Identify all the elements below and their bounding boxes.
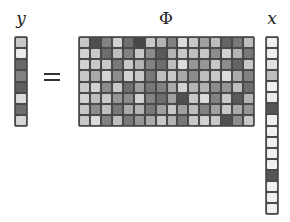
y-vector-cell	[16, 49, 26, 58]
phi-matrix-cell	[102, 71, 111, 80]
phi-matrix-cell	[222, 49, 231, 58]
y-vector-cell	[16, 116, 26, 125]
y-vector-cell	[16, 71, 26, 80]
phi-matrix-cell	[124, 105, 133, 114]
phi-matrix-cell	[102, 49, 111, 58]
phi-matrix-cell	[222, 71, 231, 80]
phi-matrix-cell	[189, 38, 198, 47]
phi-matrix-cell	[211, 38, 220, 47]
phi-matrix-cell	[168, 105, 177, 114]
phi-matrix-cell	[244, 49, 253, 58]
phi-matrix-cell	[168, 38, 177, 47]
phi-matrix-cell	[244, 60, 253, 69]
phi-matrix-cell	[168, 83, 177, 92]
phi-matrix-cell	[211, 49, 220, 58]
phi-matrix-cell	[146, 105, 155, 114]
phi-matrix-cell	[91, 105, 100, 114]
phi-matrix-cell	[91, 83, 100, 92]
phi-matrix-cell	[124, 83, 133, 92]
phi-matrix-cell	[135, 60, 144, 69]
x-vector-cell	[267, 193, 277, 202]
phi-matrix-cell	[200, 105, 209, 114]
y-vector-cell	[16, 83, 26, 92]
phi-matrix-cell	[80, 105, 89, 114]
phi-matrix-cell	[222, 116, 231, 125]
phi-matrix-cell	[222, 94, 231, 103]
phi-matrix-cell	[244, 38, 253, 47]
phi-matrix-cell	[91, 60, 100, 69]
phi-matrix-cell	[189, 71, 198, 80]
phi-matrix-cell	[168, 116, 177, 125]
y-vector-cell	[16, 38, 26, 47]
phi-matrix-cell	[113, 83, 122, 92]
y-vector-cell	[16, 60, 26, 69]
phi-matrix-cell	[178, 94, 187, 103]
phi-matrix-cell	[113, 49, 122, 58]
phi-matrix-cell	[233, 60, 242, 69]
phi-matrix-cell	[102, 38, 111, 47]
phi-matrix-cell	[113, 38, 122, 47]
phi-matrix-cell	[135, 116, 144, 125]
phi-matrix-cell	[233, 49, 242, 58]
x-vector-cell	[267, 93, 277, 102]
phi-matrix-cell	[146, 94, 155, 103]
x-vector-cell	[267, 38, 277, 47]
phi-matrix-cell	[157, 105, 166, 114]
equals-sign	[44, 73, 60, 81]
phi-matrix-cell	[135, 105, 144, 114]
phi-matrix-cell	[189, 83, 198, 92]
phi-label: Φ	[159, 10, 173, 27]
phi-matrix-cell	[146, 60, 155, 69]
phi-matrix-cell	[113, 60, 122, 69]
x-label: x	[267, 10, 277, 27]
phi-matrix-cell	[233, 38, 242, 47]
phi-matrix-cell	[178, 38, 187, 47]
phi-matrix-cell	[157, 49, 166, 58]
y-label: y	[16, 10, 26, 27]
phi-matrix-cell	[233, 83, 242, 92]
phi-matrix-cell	[157, 83, 166, 92]
phi-matrix-cell	[178, 116, 187, 125]
phi-matrix-cell	[80, 38, 89, 47]
x-vector-cell	[267, 182, 277, 191]
phi-matrix-cell	[200, 116, 209, 125]
phi-matrix-cell	[135, 49, 144, 58]
phi-matrix-cell	[124, 60, 133, 69]
x-vector-cell	[267, 115, 277, 124]
phi-matrix-cell	[244, 71, 253, 80]
phi-matrix-cell	[146, 116, 155, 125]
phi-matrix-cell	[244, 116, 253, 125]
phi-matrix-cell	[80, 49, 89, 58]
phi-matrix-cell	[157, 71, 166, 80]
phi-matrix-cell	[168, 71, 177, 80]
phi-matrix-cell	[200, 38, 209, 47]
x-vector-cell	[267, 138, 277, 147]
phi-matrix-cell	[233, 94, 242, 103]
phi-matrix-cell	[244, 83, 253, 92]
phi-matrix-cell	[146, 49, 155, 58]
phi-matrix-cell	[200, 60, 209, 69]
phi-matrix-cell	[80, 116, 89, 125]
phi-matrix-cell	[189, 116, 198, 125]
phi-matrix-cell	[135, 83, 144, 92]
x-vector-cell	[267, 82, 277, 91]
phi-matrix-cell	[80, 83, 89, 92]
phi-matrix-cell	[200, 94, 209, 103]
phi-matrix-cell	[124, 71, 133, 80]
phi-matrix-cell	[102, 60, 111, 69]
x-vector-cell	[267, 60, 277, 69]
phi-matrix-cell	[233, 105, 242, 114]
phi-matrix-cell	[135, 38, 144, 47]
phi-matrix-cell	[211, 60, 220, 69]
phi-matrix-cell	[211, 116, 220, 125]
phi-matrix-cell	[124, 94, 133, 103]
phi-matrix-cell	[102, 94, 111, 103]
phi-matrix-cell	[244, 105, 253, 114]
phi-matrix-cell	[189, 94, 198, 103]
phi-matrix-cell	[168, 60, 177, 69]
phi-matrix-cell	[211, 105, 220, 114]
phi-matrix-cell	[211, 83, 220, 92]
phi-matrix-cell	[102, 105, 111, 114]
phi-matrix-cell	[124, 49, 133, 58]
phi-matrix-cell	[189, 49, 198, 58]
